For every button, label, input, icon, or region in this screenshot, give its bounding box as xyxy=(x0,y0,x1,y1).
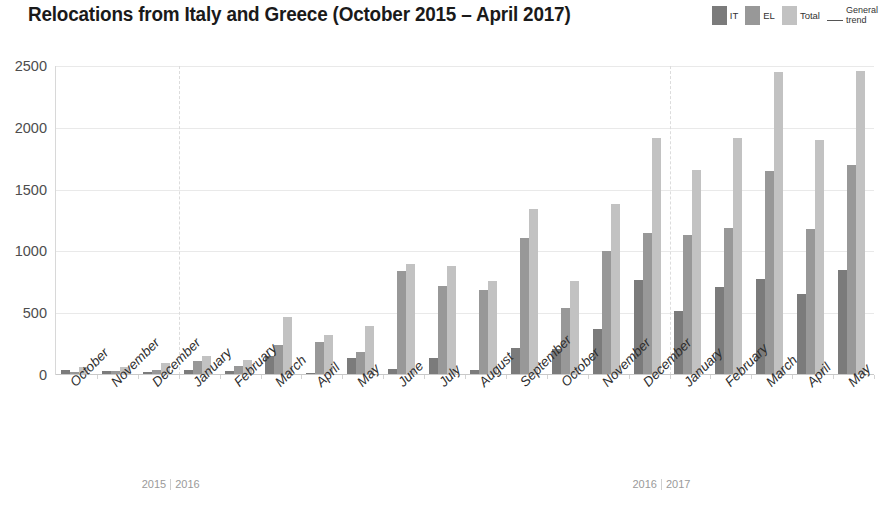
chart-plot-area: 05001000150020002500 xyxy=(55,66,874,375)
bar-total[interactable] xyxy=(652,138,661,375)
bar-group[interactable] xyxy=(388,66,415,375)
bar-total[interactable] xyxy=(815,140,824,375)
chart-header: Relocations from Italy and Greece (Octob… xyxy=(0,0,884,40)
bar-el[interactable] xyxy=(847,165,856,375)
bar-it[interactable] xyxy=(429,358,438,375)
year-marker: 20162017 xyxy=(633,478,691,490)
bar-el[interactable] xyxy=(806,229,815,375)
bar-el[interactable] xyxy=(602,251,611,375)
y-axis-tick-label: 1500 xyxy=(1,182,47,198)
y-axis-tick-label: 2000 xyxy=(1,120,47,136)
chart-legend: IT EL Total General trend xyxy=(712,6,878,32)
bar-group[interactable] xyxy=(306,66,333,375)
bar-group[interactable] xyxy=(102,66,129,375)
legend-label-general-trend: General trend xyxy=(846,6,878,25)
bar-group[interactable] xyxy=(347,66,374,375)
bar-el[interactable] xyxy=(520,238,529,375)
bar-group[interactable] xyxy=(184,66,211,375)
legend-item-el[interactable]: EL xyxy=(745,6,775,25)
legend-label-it: IT xyxy=(730,10,738,21)
page-title: Relocations from Italy and Greece (Octob… xyxy=(28,3,571,26)
y-axis-tick-label: 1000 xyxy=(1,243,47,259)
bar-group[interactable] xyxy=(470,66,497,375)
bar-group[interactable] xyxy=(143,66,170,375)
bar-group[interactable] xyxy=(756,66,783,375)
bar-group[interactable] xyxy=(265,66,292,375)
bar-group[interactable] xyxy=(225,66,252,375)
legend-item-it[interactable]: IT xyxy=(712,6,738,25)
bar-total[interactable] xyxy=(733,138,742,375)
y-axis-tick-label: 0 xyxy=(1,367,47,383)
bar-group[interactable] xyxy=(552,66,579,375)
year-separator xyxy=(670,66,671,375)
legend-label-general-trend-line2: trend xyxy=(846,15,867,25)
legend-swatch-total xyxy=(782,6,797,25)
year-marker-divider xyxy=(170,479,171,490)
bar-group[interactable] xyxy=(674,66,701,375)
legend-swatch-el xyxy=(745,6,760,25)
legend-swatch-it xyxy=(712,6,727,25)
bar-el[interactable] xyxy=(438,286,447,375)
bar-total[interactable] xyxy=(611,204,620,375)
y-axis-tick-label: 500 xyxy=(1,305,47,321)
bar-group[interactable] xyxy=(838,66,865,375)
legend-line-icon xyxy=(827,20,843,21)
legend-item-total[interactable]: Total xyxy=(782,6,820,25)
legend-label-total: Total xyxy=(800,10,820,21)
bar-total[interactable] xyxy=(856,71,865,375)
bar-group[interactable] xyxy=(634,66,661,375)
year-footer-labels: 2015201620162017 xyxy=(55,478,873,500)
year-marker-left: 2015 xyxy=(142,478,166,490)
bar-it[interactable] xyxy=(838,270,847,375)
bar-group[interactable] xyxy=(593,66,620,375)
bar-group[interactable] xyxy=(797,66,824,375)
bar-el[interactable] xyxy=(765,171,774,375)
year-marker-right: 2016 xyxy=(175,478,199,490)
year-marker: 20152016 xyxy=(142,478,200,490)
bar-total[interactable] xyxy=(529,209,538,375)
bar-el[interactable] xyxy=(479,290,488,375)
year-marker-left: 2016 xyxy=(633,478,657,490)
bar-group[interactable] xyxy=(61,66,88,375)
bar-el[interactable] xyxy=(724,228,733,375)
y-axis-tick-label: 2500 xyxy=(1,58,47,74)
x-axis-tick-labels: OctoberNovemberDecemberJanuaryFebruaryMa… xyxy=(55,375,873,470)
legend-item-general-trend[interactable]: General trend xyxy=(827,6,878,25)
legend-label-el: EL xyxy=(763,10,775,21)
x-axis-tick-mark xyxy=(874,375,875,379)
year-marker-divider xyxy=(661,479,662,490)
bar-group[interactable] xyxy=(715,66,742,375)
bar-total[interactable] xyxy=(774,72,783,375)
year-marker-right: 2017 xyxy=(666,478,690,490)
bar-group[interactable] xyxy=(429,66,456,375)
bar-it[interactable] xyxy=(347,358,356,375)
bar-total[interactable] xyxy=(447,266,456,375)
year-separator xyxy=(179,66,180,375)
legend-label-general-trend-line1: General xyxy=(846,5,878,15)
bar-el[interactable] xyxy=(397,271,406,375)
bar-group[interactable] xyxy=(511,66,538,375)
